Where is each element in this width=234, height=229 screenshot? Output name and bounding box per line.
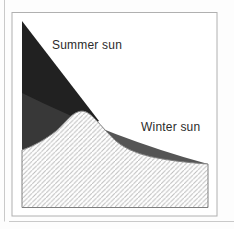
summer-sun-label: Summer sun bbox=[52, 39, 122, 52]
diagram-canvas bbox=[0, 0, 234, 229]
winter-sun-label: Winter sun bbox=[141, 121, 200, 134]
sun-angle-diagram: Summer sun Winter sun bbox=[0, 0, 234, 229]
